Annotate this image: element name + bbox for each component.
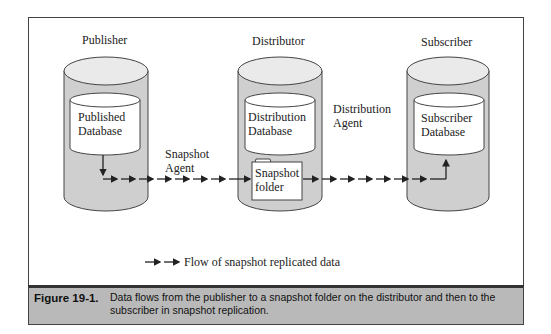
distribution-database-label-1: Distribution: [248, 110, 306, 124]
publisher-title: Publisher: [82, 33, 127, 47]
distributor-title: Distributor: [252, 34, 305, 48]
published-database-label-1: Published: [78, 110, 125, 124]
figure: Publisher Published Database Distributor…: [0, 0, 551, 334]
figure-caption: Data flows from the publisher to a snaps…: [110, 291, 510, 317]
snapshot-agent-label-1: Snapshot: [165, 147, 209, 161]
legend-text: Flow of snapshot replicated data: [184, 255, 340, 269]
distribution-database-label-2: Database: [248, 124, 292, 138]
snapshot-folder-label-2: folder: [255, 180, 284, 194]
distribution-agent-label-1: Distribution: [333, 102, 391, 116]
subscriber-database-label-1: Subscriber: [421, 111, 472, 125]
published-database-label-2: Database: [78, 124, 122, 138]
subscriber-database-label-2: Database: [421, 125, 465, 139]
subscriber-title: Subscriber: [421, 35, 472, 49]
distribution-agent-label-2: Agent: [333, 116, 362, 130]
figure-number: Figure 19-1.: [34, 292, 99, 304]
snapshot-agent-label-2: Agent: [165, 161, 194, 175]
snapshot-folder-label-1: Snapshot: [255, 166, 299, 180]
